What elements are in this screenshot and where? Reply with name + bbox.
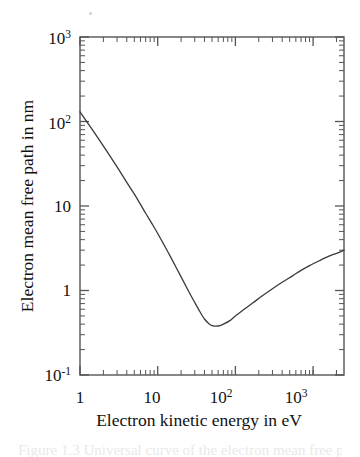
cropped-caption-ghost: Figure 1.3 Universal curve of the electr… xyxy=(18,444,342,457)
y-tick-label-1000: 103 xyxy=(48,28,71,48)
x-tick-label-1: 1 xyxy=(76,388,85,407)
y-tick-label-10: 10 xyxy=(54,197,71,216)
x-tick-label-1000: 103 xyxy=(285,387,308,407)
plot-frame xyxy=(80,37,344,375)
mean-free-path-chart: 103 102 10 1 10-1 1 10 102 xyxy=(0,0,360,457)
x-tick-label-10: 10 xyxy=(144,388,161,407)
x-tick-label-100: 102 xyxy=(210,387,233,407)
scan-artifact-speck xyxy=(89,12,92,15)
y-tick-label-100: 102 xyxy=(48,113,71,133)
x-axis-tick-labels: 1 10 102 103 xyxy=(76,387,308,407)
y-tick-label-0-1: 10-1 xyxy=(44,365,71,385)
figure-container: 103 102 10 1 10-1 1 10 102 xyxy=(0,0,360,457)
y-axis-tick-labels: 103 102 10 1 10-1 xyxy=(44,28,71,385)
y-axis-title: Electron mean free path in nm xyxy=(17,99,37,312)
y-tick-label-1: 1 xyxy=(63,281,72,300)
x-axis-title: Electron kinetic energy in eV xyxy=(96,410,302,430)
